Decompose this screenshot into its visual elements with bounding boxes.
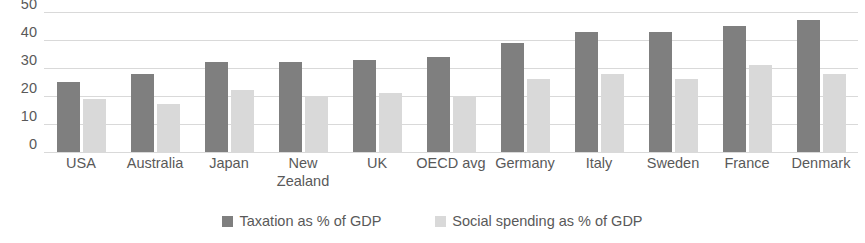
bar-social bbox=[379, 93, 402, 152]
bar-taxation bbox=[57, 82, 80, 152]
bar-social bbox=[157, 104, 180, 152]
x-axis-tick-label: New Zealand bbox=[266, 154, 340, 190]
x-axis-tick-label: Germany bbox=[488, 154, 562, 190]
bar-social bbox=[231, 90, 254, 152]
legend-swatch-icon bbox=[222, 216, 233, 227]
y-axis-tick-label: 0 bbox=[29, 137, 37, 152]
bar-social bbox=[823, 74, 846, 152]
bar-social bbox=[675, 79, 698, 152]
x-axis-labels: USAAustraliaJapanNew ZealandUKOECD avgGe… bbox=[44, 154, 858, 190]
bar-group bbox=[488, 12, 562, 152]
bar-group bbox=[340, 12, 414, 152]
bar-taxation bbox=[723, 26, 746, 152]
bar-group bbox=[562, 12, 636, 152]
bar-group bbox=[192, 12, 266, 152]
bar-group bbox=[118, 12, 192, 152]
legend-item[interactable]: Taxation as % of GDP bbox=[222, 214, 381, 229]
bar-taxation bbox=[353, 60, 376, 152]
bar-taxation bbox=[575, 32, 598, 152]
x-axis-tick-label: Sweden bbox=[636, 154, 710, 190]
bar-taxation bbox=[501, 43, 524, 152]
legend-label: Taxation as % of GDP bbox=[239, 214, 381, 229]
bar-group bbox=[636, 12, 710, 152]
bar-taxation bbox=[797, 20, 820, 152]
bar-social bbox=[749, 65, 772, 152]
bar-taxation bbox=[279, 62, 302, 152]
y-axis: 50403020100 bbox=[0, 0, 44, 152]
x-axis-tick-label: UK bbox=[340, 154, 414, 190]
chart-legend: Taxation as % of GDPSocial spending as %… bbox=[0, 214, 865, 229]
bar-group bbox=[44, 12, 118, 152]
legend-item[interactable]: Social spending as % of GDP bbox=[435, 214, 642, 229]
y-axis-tick-label: 10 bbox=[21, 109, 37, 124]
bar-group bbox=[414, 12, 488, 152]
bar-taxation bbox=[131, 74, 154, 152]
y-axis-tick-label: 40 bbox=[21, 25, 37, 40]
legend-swatch-icon bbox=[435, 216, 446, 227]
x-axis-tick-label: Italy bbox=[562, 154, 636, 190]
bar-taxation bbox=[205, 62, 228, 152]
bar-social bbox=[527, 79, 550, 152]
x-axis-tick-label: Australia bbox=[118, 154, 192, 190]
bar-social bbox=[601, 74, 624, 152]
bar-social bbox=[83, 99, 106, 152]
bar-groups bbox=[44, 8, 858, 152]
bar-group bbox=[784, 12, 858, 152]
bar-group bbox=[266, 12, 340, 152]
bar-group bbox=[710, 12, 784, 152]
bar-chart: 50403020100 USAAustraliaJapanNew Zealand… bbox=[0, 0, 865, 243]
x-axis-tick-label: France bbox=[710, 154, 784, 190]
legend-label: Social spending as % of GDP bbox=[452, 214, 642, 229]
gridline bbox=[44, 152, 858, 153]
bar-social bbox=[305, 96, 328, 152]
x-axis-tick-label: Japan bbox=[192, 154, 266, 190]
y-axis-tick-label: 30 bbox=[21, 53, 37, 68]
y-axis-tick-label: 20 bbox=[21, 81, 37, 96]
x-axis-tick-label: USA bbox=[44, 154, 118, 190]
y-axis-tick-label: 50 bbox=[21, 0, 37, 11]
x-axis-tick-label: OECD avg bbox=[414, 154, 488, 190]
bar-taxation bbox=[427, 57, 450, 152]
bar-social bbox=[453, 96, 476, 152]
bar-taxation bbox=[649, 32, 672, 152]
x-axis-tick-label: Denmark bbox=[784, 154, 858, 190]
